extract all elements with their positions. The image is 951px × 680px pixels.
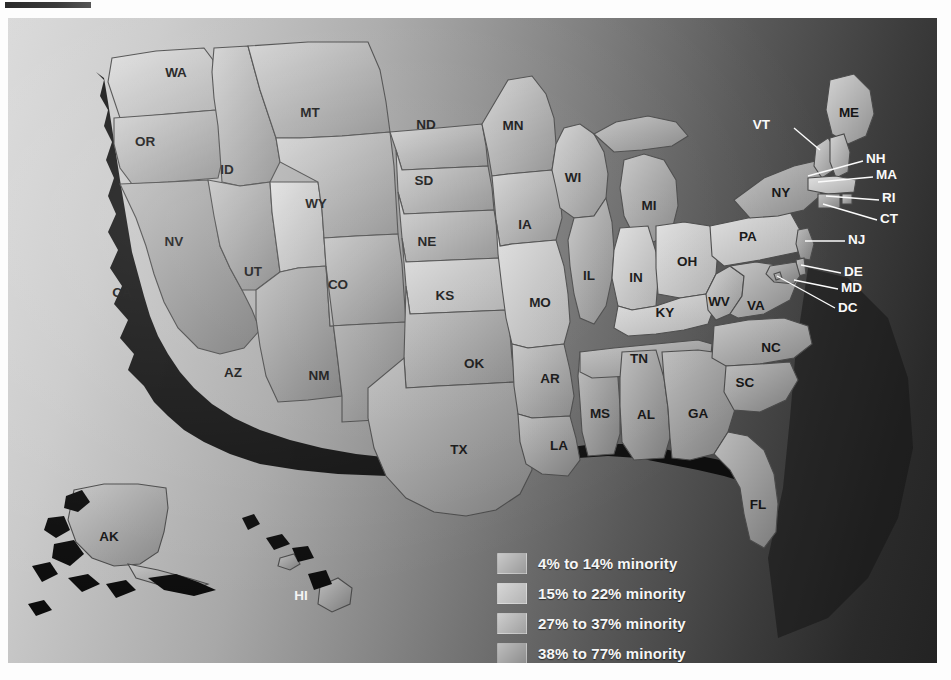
state-label-mn: MN — [503, 118, 524, 133]
legend-row: 27% to 37% minority — [497, 608, 747, 638]
map-svg: WAORCAIDNVUTAZMTWYCONMNDSDNEKSOKTXMNIAMO… — [8, 18, 937, 663]
state-label-nv: NV — [165, 234, 184, 249]
state-label-id: ID — [220, 162, 234, 177]
state-label-ks: KS — [436, 288, 455, 303]
state-label-tx: TX — [450, 442, 467, 457]
legend-label: 15% to 22% minority — [538, 585, 686, 602]
state-label-al: AL — [637, 407, 655, 422]
us-choropleth-map: WAORCAIDNVUTAZMTWYCONMNDSDNEKSOKTXMNIAMO… — [8, 18, 937, 663]
state-label-ca: CA — [112, 285, 132, 300]
state-label-ny: NY — [772, 185, 791, 200]
state-label-fl: FL — [750, 497, 767, 512]
state-label-mt: MT — [300, 105, 320, 120]
state-label-sd: SD — [415, 173, 434, 188]
state-label-mo: MO — [529, 295, 551, 310]
state-label-ut: UT — [244, 264, 263, 279]
state-label-co: CO — [328, 277, 348, 292]
legend-label: 27% to 37% minority — [538, 615, 686, 632]
state-label-wy: WY — [305, 196, 327, 211]
state-label-ri: RI — [882, 190, 896, 205]
state-label-la: LA — [550, 438, 568, 453]
legend-label: 38% to 77% minority — [538, 645, 686, 662]
state-WA — [108, 48, 220, 118]
state-OR — [114, 110, 224, 184]
state-label-ne: NE — [418, 234, 437, 249]
state-label-nj: NJ — [848, 232, 865, 247]
state-IN — [612, 226, 658, 310]
state-label-ak: AK — [99, 529, 119, 544]
legend-label: 4% to 14% minority — [538, 555, 677, 572]
legend-swatch-bin-4 — [497, 643, 527, 664]
island-speckle — [28, 490, 332, 616]
legend-row: 38% to 77% minority — [497, 638, 747, 663]
state-label-md: MD — [841, 280, 862, 295]
state-label-sc: SC — [736, 375, 755, 390]
state-label-hi: HI — [294, 588, 308, 603]
leader-line-vt — [794, 128, 820, 150]
state-label-me: ME — [839, 105, 859, 120]
state-NJ — [796, 228, 814, 260]
state-label-dc: DC — [838, 300, 858, 315]
legend-swatch-bin-1 — [497, 553, 527, 574]
state-label-ma: MA — [876, 167, 897, 182]
state-RI — [842, 194, 852, 204]
state-label-il: IL — [583, 268, 595, 283]
state-label-wi: WI — [565, 170, 582, 185]
legend-swatch-bin-3 — [497, 613, 527, 634]
scan-artifact-bar — [5, 2, 91, 8]
state-label-vt: VT — [753, 117, 771, 132]
state-label-wa: WA — [165, 65, 187, 80]
state-label-tn: TN — [630, 351, 648, 366]
state-label-nm: NM — [309, 368, 330, 383]
state-label-nd: ND — [416, 117, 436, 132]
state-label-pa: PA — [739, 229, 757, 244]
state-MI-up — [594, 116, 688, 152]
state-label-va: VA — [747, 298, 765, 313]
state-FL — [714, 432, 778, 548]
state-label-de: DE — [844, 264, 863, 279]
map-page: WAORCAIDNVUTAZMTWYCONMNDSDNEKSOKTXMNIAMO… — [0, 0, 951, 680]
legend-row: 4% to 14% minority — [497, 548, 747, 578]
legend-row: 15% to 22% minority — [497, 578, 747, 608]
leader-line-ct — [823, 204, 877, 220]
state-IA — [492, 170, 562, 246]
map-legend: 4% to 14% minority15% to 22% minority27%… — [497, 548, 747, 663]
state-label-or: OR — [135, 134, 156, 149]
legend-swatch-bin-2 — [497, 583, 527, 604]
state-label-nc: NC — [761, 340, 781, 355]
state-label-ms: MS — [590, 406, 610, 421]
state-label-ar: AR — [540, 371, 560, 386]
state-label-in: IN — [629, 270, 643, 285]
state-label-wv: WV — [708, 294, 730, 309]
state-label-ok: OK — [464, 356, 485, 371]
state-label-ct: CT — [880, 211, 899, 226]
state-label-ga: GA — [688, 406, 709, 421]
state-label-az: AZ — [224, 365, 242, 380]
state-label-oh: OH — [677, 254, 697, 269]
state-ND — [390, 124, 488, 170]
state-label-mi: MI — [642, 198, 657, 213]
state-label-ky: KY — [656, 305, 675, 320]
state-label-ia: IA — [518, 217, 532, 232]
state-label-nh: NH — [866, 151, 886, 166]
